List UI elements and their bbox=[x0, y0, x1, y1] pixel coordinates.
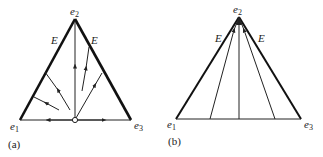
vertex-label-left: e1 bbox=[167, 118, 176, 132]
caption-b: (b) bbox=[168, 135, 181, 148]
edge-label-right: E bbox=[257, 32, 265, 44]
vertex-label-top: e2 bbox=[233, 3, 242, 17]
edge-e-left bbox=[176, 17, 239, 119]
edge-label-right: E bbox=[90, 34, 98, 46]
caption-a: (a) bbox=[8, 138, 21, 151]
flow-line-inner-left bbox=[45, 72, 58, 90]
flow-line-right bbox=[95, 73, 102, 85]
fixed-point-circle bbox=[72, 117, 77, 122]
vertex-label-top: e2 bbox=[70, 5, 79, 19]
panel-b: e2 e1 e3 E E (b) bbox=[167, 3, 313, 148]
edge-label-left: E bbox=[50, 34, 58, 46]
vertex-label-left: e1 bbox=[10, 120, 19, 134]
edge-label-left: E bbox=[214, 32, 222, 44]
figure-canvas: e2 e1 e3 E E (a) e2 e1 e3 E E (b) bbox=[0, 0, 323, 157]
arrow-lower-left bbox=[46, 103, 59, 110]
flow-line-lower-left bbox=[34, 97, 46, 103]
vertex-label-right: e3 bbox=[134, 119, 143, 133]
arrow-center-right bbox=[76, 85, 95, 118]
arrow-inner-left bbox=[58, 90, 70, 110]
arrow-inner-right bbox=[82, 68, 86, 91]
panel-a: e2 e1 e3 E E (a) bbox=[8, 5, 143, 151]
flow-line-inner-right bbox=[86, 47, 89, 68]
vertex-label-right: e3 bbox=[304, 118, 313, 132]
